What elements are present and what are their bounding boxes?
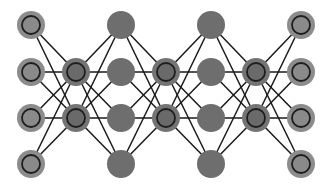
node-col-2-row-2 bbox=[107, 104, 135, 132]
node-col-4-row-1 bbox=[197, 58, 225, 86]
network-diagram bbox=[0, 0, 334, 190]
node-col-6-row-3 bbox=[287, 150, 315, 178]
node-col-5-row-1 bbox=[242, 58, 270, 86]
solid-node-circle bbox=[107, 58, 135, 86]
node-col-6-row-2 bbox=[287, 104, 315, 132]
node-col-4-row-2 bbox=[197, 104, 225, 132]
node-col-4-row-0 bbox=[197, 11, 225, 39]
node-col-4-row-3 bbox=[197, 150, 225, 178]
node-col-2-row-0 bbox=[107, 11, 135, 39]
node-col-5-row-2 bbox=[242, 104, 270, 132]
nodes-layer bbox=[17, 11, 315, 178]
ringed-node-inner-ring bbox=[157, 109, 175, 127]
node-col-2-row-1 bbox=[107, 58, 135, 86]
ringed-node-inner-ring bbox=[22, 109, 40, 127]
ringed-node-inner-ring bbox=[22, 16, 40, 34]
solid-node-circle bbox=[107, 104, 135, 132]
ringed-node-inner-ring bbox=[22, 155, 40, 173]
solid-node-circle bbox=[107, 11, 135, 39]
ringed-node-inner-ring bbox=[22, 63, 40, 81]
node-col-3-row-2 bbox=[152, 104, 180, 132]
node-col-1-row-2 bbox=[62, 104, 90, 132]
node-col-6-row-1 bbox=[287, 58, 315, 86]
ringed-node-inner-ring bbox=[247, 109, 265, 127]
node-col-1-row-1 bbox=[62, 58, 90, 86]
node-col-2-row-3 bbox=[107, 150, 135, 178]
ringed-node-inner-ring bbox=[292, 109, 310, 127]
node-col-0-row-3 bbox=[17, 150, 45, 178]
node-col-0-row-2 bbox=[17, 104, 45, 132]
solid-node-circle bbox=[197, 150, 225, 178]
ringed-node-inner-ring bbox=[67, 63, 85, 81]
solid-node-circle bbox=[197, 58, 225, 86]
solid-node-circle bbox=[107, 150, 135, 178]
ringed-node-inner-ring bbox=[67, 109, 85, 127]
ringed-node-inner-ring bbox=[292, 155, 310, 173]
node-col-0-row-1 bbox=[17, 58, 45, 86]
node-col-6-row-0 bbox=[287, 11, 315, 39]
ringed-node-inner-ring bbox=[292, 16, 310, 34]
edges-layer bbox=[31, 25, 301, 164]
solid-node-circle bbox=[197, 104, 225, 132]
node-col-3-row-1 bbox=[152, 58, 180, 86]
ringed-node-inner-ring bbox=[247, 63, 265, 81]
ringed-node-inner-ring bbox=[157, 63, 175, 81]
ringed-node-inner-ring bbox=[292, 63, 310, 81]
node-col-0-row-0 bbox=[17, 11, 45, 39]
solid-node-circle bbox=[197, 11, 225, 39]
